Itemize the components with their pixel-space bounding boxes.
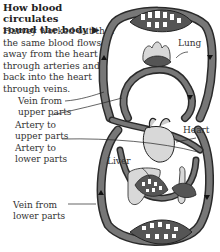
label-vein-lower-line2: lower parts: [13, 211, 65, 222]
label-vein-lower: Vein from lower parts: [13, 200, 65, 221]
label-heart: Heart: [183, 125, 209, 136]
label-artery-lower: Artery to lower parts: [15, 143, 67, 164]
label-artery-upper-line2: upper parts: [15, 131, 68, 142]
label-artery-upper-line1: Artery to: [15, 120, 68, 131]
label-liver: Liver: [107, 156, 131, 167]
heart-organ: [143, 118, 174, 162]
label-artery-lower-line1: Artery to: [15, 143, 67, 154]
label-vein-upper-line1: Vein from: [18, 96, 71, 107]
label-vein-upper-line2: upper parts: [18, 107, 71, 118]
label-vein-upper: Vein from upper parts: [18, 96, 71, 117]
label-lung: Lung: [178, 38, 201, 49]
label-artery-upper: Artery to upper parts: [15, 120, 68, 141]
label-vein-lower-line1: Vein from: [13, 200, 65, 211]
lung-organ: [143, 42, 171, 67]
label-artery-lower-line2: lower parts: [15, 154, 67, 165]
